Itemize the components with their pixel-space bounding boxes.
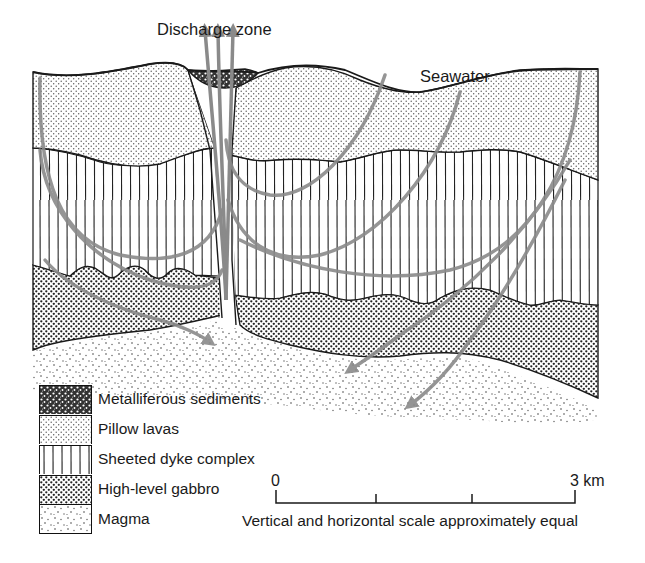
- magma-swatch: [39, 504, 92, 534]
- sheeted-dyke-layer-right: [230, 150, 598, 305]
- gabbro-swatch: [39, 475, 92, 504]
- scale-caption: Vertical and horizontal scale approximat…: [242, 512, 578, 530]
- legend-item-metalliferous: Metalliferous sediments: [39, 384, 419, 414]
- legend-label: Pillow lavas: [98, 420, 179, 438]
- legend-label: High-level gabbro: [98, 480, 220, 498]
- sheeted-dyke-swatch: [39, 445, 92, 474]
- pillow-lavas-layer-left: [33, 63, 215, 166]
- legend-item-pillow-lavas: Pillow lavas: [39, 414, 419, 444]
- legend-item-gabbro: High-level gabbro: [39, 474, 419, 504]
- legend-label: Sheeted dyke complex: [98, 450, 255, 468]
- seawater-label: Seawater: [420, 67, 490, 85]
- discharge-zone-label: Discharge zone: [157, 20, 272, 38]
- scale-end-label: 3 km: [570, 472, 605, 489]
- legend-label: Magma: [98, 510, 150, 528]
- pillow-lavas-swatch: [39, 415, 92, 444]
- metalliferous-swatch: [39, 385, 92, 414]
- legend-label: Metalliferous sediments: [98, 390, 261, 408]
- legend-item-sheeted-dyke: Sheeted dyke complex: [39, 444, 419, 474]
